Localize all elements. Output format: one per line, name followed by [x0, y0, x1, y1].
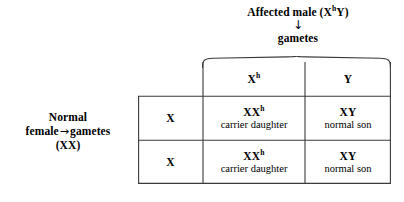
offspring-genotype-r2c2: XY	[339, 150, 356, 163]
row-header-x-2-text: X	[166, 156, 175, 169]
column-header-xh-base: X	[248, 73, 257, 85]
row-header-x-2: X	[138, 140, 203, 184]
column-header-y: Y	[305, 62, 391, 96]
offspring-genotype-r2c1-base: XX	[243, 150, 260, 162]
punnett-square-diagram: Affected male (XhY) ↓ gametes Normal fem…	[0, 0, 404, 202]
row-header-x-1: X	[138, 96, 203, 140]
column-header-xh-superscript: h	[256, 71, 260, 80]
maternal-line2: female→gametes	[2, 124, 134, 138]
maternal-gametes-label: gametes	[70, 125, 110, 137]
offspring-genotype-r2c1-superscript: h	[260, 148, 264, 157]
offspring-phenotype-r2c2: normal son	[325, 163, 372, 175]
offspring-cell-r2c1: XXh carrier daughter	[203, 140, 305, 184]
offspring-genotype-r1c1-superscript: h	[260, 104, 264, 113]
offspring-phenotype-r2c1: carrier daughter	[221, 163, 288, 175]
offspring-genotype-r2c1: XXh	[243, 150, 264, 163]
offspring-phenotype-r1c2: normal son	[325, 119, 372, 131]
maternal-line1: Normal	[2, 110, 134, 124]
punnett-grid: Xh Y X XXh carrier daughter XY normal so…	[138, 62, 391, 184]
row-header-x-1-text: X	[166, 112, 175, 125]
column-header-y-base: Y	[344, 73, 353, 85]
paternal-title-suffix: Y)	[336, 6, 348, 18]
down-arrow-icon: ↓	[203, 19, 393, 32]
offspring-genotype-r1c1-base: XX	[243, 106, 260, 118]
offspring-genotype-r1c2: XY	[339, 106, 356, 119]
column-header-y-text: Y	[344, 73, 353, 86]
offspring-cell-r1c2: XY normal son	[305, 96, 391, 140]
column-header-xh-text: Xh	[248, 73, 261, 86]
maternal-label: Normal female→gametes (XX)	[2, 110, 134, 152]
offspring-genotype-r2c2-base: XY	[339, 150, 356, 162]
paternal-gametes-label: gametes	[203, 32, 393, 44]
paternal-heading: Affected male (XhY) ↓ gametes	[203, 6, 393, 44]
paternal-title-prefix: Affected male (X	[247, 6, 332, 18]
column-header-xh: Xh	[203, 62, 305, 96]
maternal-line2-prefix: female	[26, 125, 59, 137]
offspring-cell-r2c2: XY normal son	[305, 140, 391, 184]
offspring-cell-r1c1: XXh carrier daughter	[203, 96, 305, 140]
offspring-phenotype-r1c1: carrier daughter	[221, 119, 288, 131]
maternal-line3: (XX)	[2, 138, 134, 152]
offspring-genotype-r1c2-base: XY	[339, 106, 356, 118]
right-arrow-icon: →	[59, 125, 70, 138]
offspring-genotype-r1c1: XXh	[243, 106, 264, 119]
paternal-genotype-label: Affected male (XhY)	[203, 6, 393, 18]
